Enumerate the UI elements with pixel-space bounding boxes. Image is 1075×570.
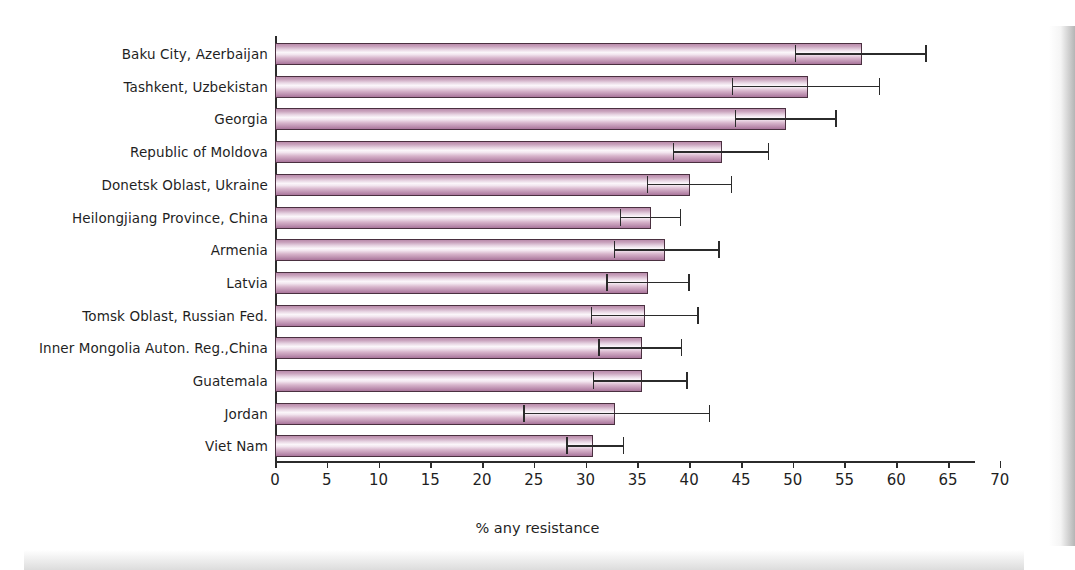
error-bar-line — [732, 86, 879, 88]
bar-row — [275, 174, 975, 196]
error-bar-line — [598, 347, 681, 349]
bar-row — [275, 435, 975, 457]
error-bar-cap-high — [681, 339, 683, 356]
x-axis-tick-label: 30 — [564, 471, 608, 489]
error-bar-line — [606, 282, 688, 284]
error-bar-line — [523, 413, 708, 415]
bar — [275, 435, 593, 457]
error-bar-cap-low — [523, 405, 525, 422]
error-bar-cap-high — [686, 372, 688, 389]
error-bar-line — [593, 380, 686, 382]
category-label: Tashkent, Uzbekistan — [0, 80, 268, 94]
bar-row — [275, 370, 975, 392]
bar — [275, 337, 642, 359]
bar — [275, 239, 665, 261]
x-axis-tick — [948, 461, 950, 468]
x-axis-tick-label: 25 — [512, 471, 556, 489]
category-label: Georgia — [0, 112, 268, 126]
bar-row — [275, 108, 975, 130]
error-bar-line — [647, 184, 731, 186]
error-bar-cap-high — [768, 143, 770, 160]
error-bar-line — [620, 217, 680, 219]
x-axis-tick-label: 5 — [305, 471, 349, 489]
category-label: Tomsk Oblast, Russian Fed. — [0, 309, 268, 323]
bar — [275, 207, 651, 229]
bar — [275, 43, 862, 65]
x-axis-tick-label: 20 — [460, 471, 504, 489]
error-bar-cap-high — [879, 78, 881, 95]
error-bar-cap-low — [735, 110, 737, 127]
bar-row — [275, 337, 975, 359]
bar — [275, 108, 786, 130]
bar — [275, 305, 645, 327]
category-label: Armenia — [0, 243, 268, 257]
x-axis-title: % any resistance — [0, 520, 1075, 536]
x-axis-tick — [482, 461, 484, 468]
x-axis-tick — [844, 461, 846, 468]
bar-row — [275, 207, 975, 229]
x-axis-tick — [793, 461, 795, 468]
error-bar-line — [614, 249, 719, 251]
error-bar-line — [591, 315, 698, 317]
x-axis-tick — [534, 461, 536, 468]
bar — [275, 370, 642, 392]
x-axis-tick — [586, 461, 588, 468]
error-bar-cap-low — [614, 241, 616, 258]
category-label: Latvia — [0, 276, 268, 290]
category-label: Donetsk Oblast, Ukraine — [0, 178, 268, 192]
error-bar-cap-high — [925, 45, 927, 62]
bar — [275, 141, 722, 163]
error-bar-cap-high — [835, 110, 837, 127]
error-bar-cap-high — [709, 405, 711, 422]
bar — [275, 272, 648, 294]
error-bar-cap-high — [688, 274, 690, 291]
error-bar-line — [566, 445, 623, 447]
error-bar-cap-low — [620, 209, 622, 226]
x-axis-tick-label: 70 — [978, 471, 1022, 489]
x-axis-tick — [430, 461, 432, 468]
horizontal-bar-chart: Baku City, AzerbaijanTashkent, Uzbekista… — [0, 0, 1075, 570]
x-axis-tick — [689, 461, 691, 468]
x-axis-tick — [379, 461, 381, 468]
x-axis-tick — [741, 461, 743, 468]
x-axis-tick-label: 55 — [822, 471, 866, 489]
x-axis-tick — [275, 461, 277, 468]
x-axis-tick-label: 45 — [719, 471, 763, 489]
category-label: Republic of Moldova — [0, 145, 268, 159]
x-axis-tick — [1000, 461, 1002, 468]
error-bar-cap-low — [647, 176, 649, 193]
x-axis-tick — [896, 461, 898, 468]
x-axis-tick — [637, 461, 639, 468]
error-bar-cap-low — [673, 143, 675, 160]
error-bar-cap-low — [732, 78, 734, 95]
error-bar-line — [795, 53, 925, 55]
error-bar-line — [735, 118, 835, 120]
category-label: Inner Mongolia Auton. Reg.,China — [0, 341, 268, 355]
category-label: Baku City, Azerbaijan — [0, 47, 268, 61]
category-label-column: Baku City, AzerbaijanTashkent, Uzbekista… — [0, 36, 268, 462]
error-bar-cap-high — [718, 241, 720, 258]
x-axis-tick-label: 35 — [615, 471, 659, 489]
error-bar-cap-low — [606, 274, 608, 291]
error-bar-cap-high — [623, 437, 625, 454]
bar-row — [275, 43, 975, 65]
error-bar-cap-low — [598, 339, 600, 356]
bar-row — [275, 141, 975, 163]
category-label: Guatemala — [0, 374, 268, 388]
error-bar-cap-high — [680, 209, 682, 226]
bar — [275, 76, 808, 98]
chart-page: Baku City, AzerbaijanTashkent, Uzbekista… — [0, 0, 1075, 570]
bar-row — [275, 272, 975, 294]
x-axis-tick-label: 10 — [357, 471, 401, 489]
bar-row — [275, 76, 975, 98]
x-axis-tick-label: 65 — [926, 471, 970, 489]
x-axis-tick — [327, 461, 329, 468]
error-bar-cap-low — [795, 45, 797, 62]
bar-row — [275, 305, 975, 327]
category-label: Heilongjiang Province, China — [0, 211, 268, 225]
bar-row — [275, 403, 975, 425]
x-axis-tick-label: 0 — [253, 471, 297, 489]
error-bar-cap-low — [593, 372, 595, 389]
bar — [275, 174, 690, 196]
x-axis-tick-label: 15 — [408, 471, 452, 489]
